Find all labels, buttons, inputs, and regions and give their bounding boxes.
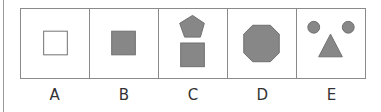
option-e-panel[interactable]: [297, 9, 365, 78]
option-d-panel[interactable]: [228, 9, 297, 78]
filled-octagon-icon: [228, 9, 296, 78]
option-c-panel[interactable]: [159, 9, 228, 78]
option-label-e: E: [297, 86, 366, 104]
page-border: [3, 0, 4, 112]
option-b-panel[interactable]: [90, 9, 159, 78]
circles-and-triangle-icon: [297, 9, 365, 78]
filled-square-icon: [90, 9, 158, 78]
options-strip: [20, 8, 366, 79]
option-label-d: D: [228, 86, 297, 104]
pentagon-and-square-icon: [159, 9, 227, 78]
hollow-square-icon: [21, 9, 89, 78]
option-labels: A B C D E: [20, 86, 366, 104]
option-a-panel[interactable]: [21, 9, 90, 78]
option-label-c: C: [158, 86, 227, 104]
option-label-b: B: [89, 86, 158, 104]
option-label-a: A: [20, 86, 89, 104]
